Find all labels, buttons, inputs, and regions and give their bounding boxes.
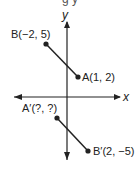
label-a-prime: A′(?, ?) <box>22 102 57 114</box>
label-b-prime: B′(2, −5) <box>93 145 135 157</box>
y-axis-label: y <box>61 8 69 22</box>
coordinate-plane: g y y x B(−2, 5) A(1, 2) A′(?, ?) B′(2, … <box>0 0 139 169</box>
y-axis-down-arrow-icon <box>64 152 70 160</box>
segment-ba <box>46 44 78 77</box>
x-axis-left-arrow-icon <box>14 94 22 100</box>
point-b-prime <box>85 148 90 153</box>
point-b <box>43 41 48 46</box>
top-cut-text: g y <box>62 0 78 6</box>
point-a-prime <box>54 115 59 120</box>
point-a <box>75 74 80 79</box>
label-a: A(1, 2) <box>82 71 115 83</box>
segment-a-prime-b-prime <box>57 118 88 151</box>
label-b: B(−2, 5) <box>11 28 50 40</box>
x-axis-label: x <box>122 90 130 104</box>
